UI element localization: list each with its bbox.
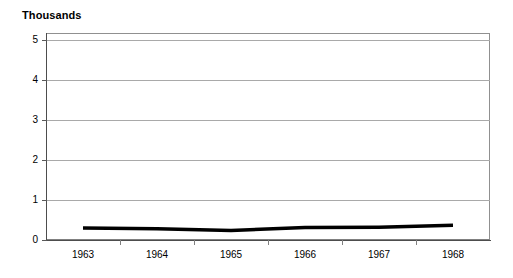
- x-tick-1: [120, 240, 121, 245]
- x-axis-label-1967: 1967: [349, 249, 409, 261]
- y-tick-3: [42, 120, 47, 121]
- y-tick-1: [42, 200, 47, 201]
- x-tick-3: [268, 240, 269, 245]
- gridline-3: [47, 120, 490, 121]
- y-tick-0: [42, 240, 47, 241]
- x-tick-2: [194, 240, 195, 245]
- y-tick-4: [42, 80, 47, 81]
- x-tick-4: [342, 240, 343, 245]
- x-axis-label-1963: 1963: [53, 249, 113, 261]
- y-axis-label-4: 4: [4, 75, 38, 85]
- y-axis-label-5: 5: [4, 35, 38, 45]
- x-axis-label-1965: 1965: [201, 249, 261, 261]
- x-tick-5: [416, 240, 417, 245]
- y-axis-label-2: 2: [4, 155, 38, 165]
- gridline-4: [47, 80, 490, 81]
- x-axis-label-1966: 1966: [275, 249, 335, 261]
- y-axis-line: [46, 33, 47, 241]
- y-axis-label-3: 3: [4, 115, 38, 125]
- y-axis-label-1: 1: [4, 195, 38, 205]
- chart-title: Thousands: [22, 9, 82, 22]
- gridline-2: [47, 160, 490, 161]
- gridline-5: [47, 40, 490, 41]
- plot-area: [46, 33, 490, 240]
- x-axis-label-1964: 1964: [127, 249, 187, 261]
- y-tick-5: [42, 40, 47, 41]
- x-axis-label-1968: 1968: [423, 249, 483, 261]
- y-axis-label-0: 0: [4, 235, 38, 245]
- y-tick-2: [42, 160, 47, 161]
- line-chart: Thousands 5 4 3 2 1 0 1963 1964 1965 196…: [0, 0, 513, 278]
- gridline-1: [47, 200, 490, 201]
